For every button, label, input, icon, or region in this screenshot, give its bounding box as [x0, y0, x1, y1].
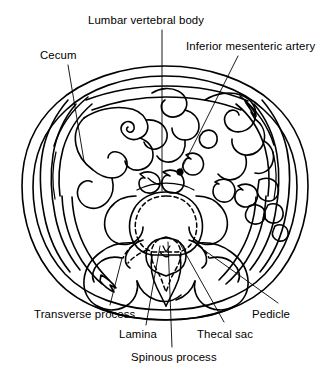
- label-thecal-sac: Thecal sac: [197, 328, 253, 340]
- label-lamina: Lamina: [119, 328, 157, 340]
- small-bowel-loops: [139, 89, 203, 194]
- label-cecum: Cecum: [40, 49, 77, 61]
- leader-inferior-mesenteric-artery: [180, 56, 238, 172]
- leader-transverse-process: [110, 258, 122, 305]
- anterior-peritoneal-line: [86, 86, 248, 110]
- anatomy-figure: Lumbar vertebral body Inferior mesenteri…: [0, 0, 331, 389]
- label-lumbar-vertebral-body: Lumbar vertebral body: [88, 14, 204, 26]
- lumbar-vertebral-body: [130, 192, 203, 255]
- leader-lamina: [146, 246, 160, 325]
- label-transverse-process: Transverse process: [34, 308, 135, 320]
- label-pedicle: Pedicle: [252, 308, 290, 320]
- mesenteric-vessels: [137, 178, 194, 190]
- label-inferior-mesenteric-artery: Inferior mesenteric artery: [186, 40, 315, 52]
- label-spinous-process: Spinous process: [131, 351, 217, 363]
